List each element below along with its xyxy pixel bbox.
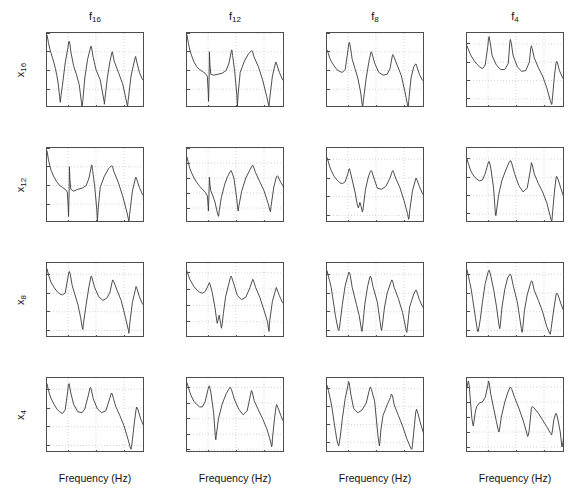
y-tick-mark <box>47 185 50 186</box>
y-tick-mark <box>327 406 330 407</box>
frf-curve <box>47 269 144 334</box>
column-header-f12: f12 <box>186 10 284 24</box>
y-tick-mark <box>187 305 190 306</box>
column-header-f16: f16 <box>46 10 144 24</box>
row-label-x8: x8 <box>14 285 28 315</box>
y-tick-mark <box>187 33 190 34</box>
plot-area: -120-100-80-60204060 <box>326 377 424 452</box>
column-header-subscript: 8 <box>374 15 378 24</box>
y-tick-mark <box>47 408 50 409</box>
row-label-subscript: 4 <box>19 410 28 414</box>
plot-area: -120-100-80-60204060 <box>326 147 424 222</box>
y-tick-mark <box>187 434 190 435</box>
frf-curve <box>467 37 564 105</box>
x-axis-label: Frequency (Hz) <box>174 472 296 484</box>
frf-curve <box>327 382 424 450</box>
y-tick-mark <box>47 89 50 90</box>
y-tick-mark <box>327 178 330 179</box>
y-tick-mark <box>467 293 470 294</box>
row-label-base: x <box>14 71 26 77</box>
y-tick-mark <box>187 193 190 194</box>
plot-area: -120-100-80-60-40204060 <box>186 32 284 107</box>
frf-curve <box>327 157 424 219</box>
frf-curve <box>47 151 144 222</box>
subplot-r4c3: -120-100-80-60204060 <box>326 377 424 452</box>
plot-area: -120-100-80-60204060 <box>46 377 144 452</box>
y-tick-mark <box>467 417 470 418</box>
y-tick-mark <box>187 70 190 71</box>
plot-area: -120-100-80-60204060 <box>326 262 424 337</box>
frf-curve <box>327 42 424 107</box>
y-tick-mark <box>327 33 330 34</box>
y-tick-mark <box>187 418 190 419</box>
y-tick-mark <box>47 330 50 331</box>
y-tick-mark <box>327 159 330 160</box>
y-tick-mark <box>187 272 190 273</box>
plot-area: -120-100-80-60204060 <box>466 32 564 107</box>
frf-curve <box>47 384 144 450</box>
plot-area: -120-100-80-60-40204060 <box>326 32 424 107</box>
y-tick-mark <box>467 158 470 159</box>
y-tick-mark <box>47 426 50 427</box>
y-tick-mark <box>467 43 470 44</box>
y-tick-mark <box>467 402 470 403</box>
y-tick-mark <box>467 195 470 196</box>
y-tick-mark <box>327 442 330 443</box>
x-axis-label: Frequency (Hz) <box>454 472 568 484</box>
y-tick-mark <box>47 311 50 312</box>
plot-area: -140-120-100-80-60204060 <box>186 377 284 452</box>
y-tick-mark <box>187 387 190 388</box>
column-header-f4: f4 <box>466 10 564 24</box>
y-tick-mark <box>327 274 330 275</box>
row-label-x4: x4 <box>14 400 28 430</box>
y-tick-mark <box>327 51 330 52</box>
plot-area: -120-100-80-60-40204060 <box>46 32 144 107</box>
y-tick-mark <box>467 213 470 214</box>
row-label-base: x <box>14 299 26 305</box>
row-label-subscript: 16 <box>19 62 28 71</box>
plot-area: -120-100-80-60-40204060 <box>186 147 284 222</box>
y-tick-mark <box>47 148 50 149</box>
row-label-x16: x16 <box>14 55 28 85</box>
y-tick-mark <box>187 178 190 179</box>
subplot-r4c2: -140-120-100-80-60204060 <box>186 377 284 452</box>
subplot-r3c4: -120-100-80-60204060 <box>466 262 564 337</box>
subplot-r2c2: -120-100-80-60-40204060 <box>186 147 284 222</box>
plot-area: -120-100-80-60204060 <box>466 147 564 222</box>
y-tick-mark <box>187 321 190 322</box>
x-axis-label: Frequency (Hz) <box>34 472 156 484</box>
y-tick-mark <box>187 89 190 90</box>
y-tick-mark <box>467 80 470 81</box>
y-tick-mark <box>327 293 330 294</box>
plot-area: -120-100-80-60-40204060 <box>46 147 144 222</box>
y-tick-mark <box>47 51 50 52</box>
y-tick-mark <box>187 449 190 450</box>
subplot-r1c2: -120-100-80-60-40204060 <box>186 32 284 107</box>
y-tick-mark <box>327 89 330 90</box>
column-header-subscript: 4 <box>514 15 518 24</box>
y-tick-mark <box>47 293 50 294</box>
subplot-r3c1: -120-100-80-60204060 <box>46 262 144 337</box>
subplot-r3c2: -140-120-100-80-60204060 <box>186 262 284 337</box>
frf-curve <box>187 271 284 331</box>
frf-curve <box>187 157 284 216</box>
subplot-r3c3: -120-100-80-60204060 <box>326 262 424 337</box>
y-tick-mark <box>187 289 190 290</box>
y-tick-mark <box>47 33 50 34</box>
y-tick-mark <box>187 148 190 149</box>
frf-curve <box>47 35 144 107</box>
figure-frf-matrix: f16f12f8f4x16x12x8x4Frequency (Hz)Freque… <box>0 0 568 489</box>
column-header-subscript: 16 <box>92 15 101 24</box>
y-tick-mark <box>467 98 470 99</box>
y-tick-mark <box>327 196 330 197</box>
plot-area: -140-120-100-80-60204060 <box>466 377 564 452</box>
y-tick-mark <box>467 311 470 312</box>
y-tick-mark <box>187 208 190 209</box>
y-tick-mark <box>467 432 470 433</box>
y-tick-mark <box>47 70 50 71</box>
row-label-base: x <box>14 414 26 420</box>
frf-curve <box>327 271 424 333</box>
y-tick-mark <box>327 330 330 331</box>
y-tick-mark <box>467 447 470 448</box>
y-tick-mark <box>467 62 470 63</box>
